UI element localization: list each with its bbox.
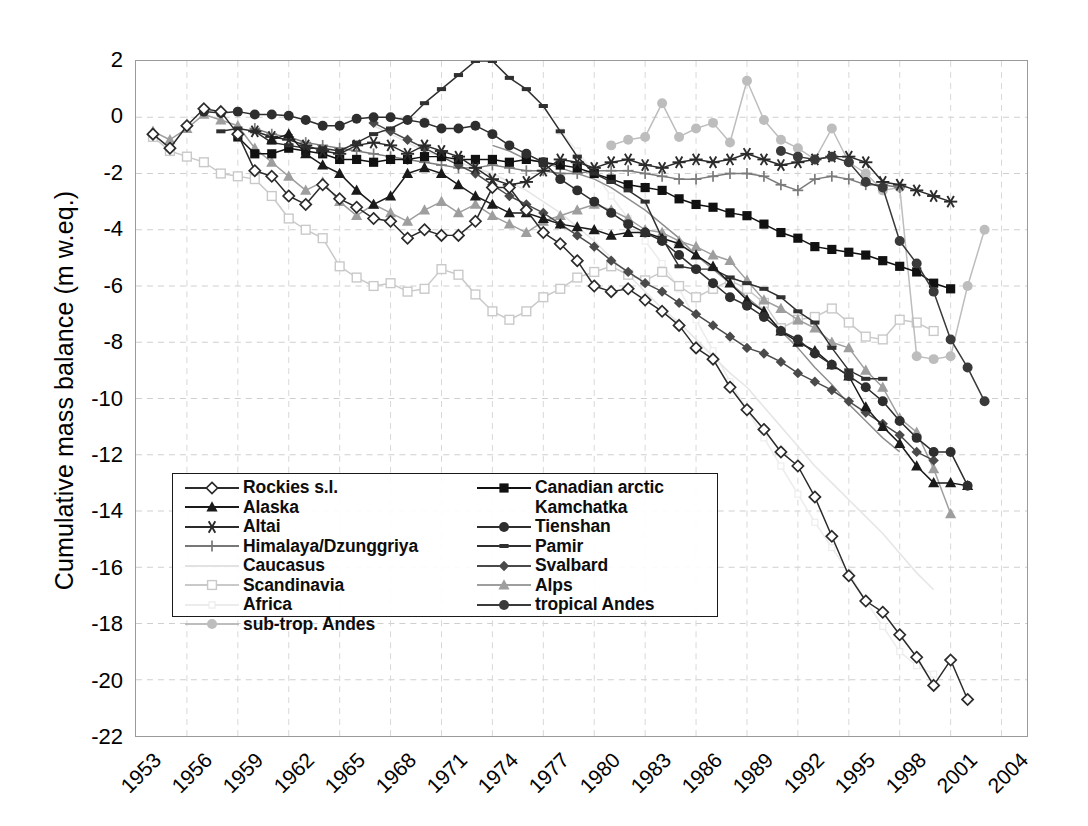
legend-label: Rockies s.l. — [243, 477, 338, 498]
series-svalbard — [368, 118, 938, 466]
legend-item-tropical-andes[interactable]: tropical Andes — [473, 595, 713, 615]
legend-label: Africa — [243, 594, 292, 615]
legend-item-africa[interactable]: Africa — [181, 595, 471, 615]
legend-item-canadian-arctic[interactable]: Canadian arctic — [473, 478, 713, 498]
legend-marker-icon — [473, 596, 535, 614]
legend-item-kamchatka[interactable]: Kamchatka — [473, 498, 713, 518]
legend-label: Altai — [243, 516, 280, 537]
legend-marker-icon — [181, 537, 243, 555]
legend-label: tropical Andes — [535, 594, 655, 615]
legend-item-sub-trop-andes[interactable]: sub-trop. Andes — [181, 615, 471, 635]
legend-marker-icon — [473, 518, 535, 536]
legend-column-right: Canadian arcticKamchatkaTienshanPamirSva… — [473, 478, 713, 615]
legend-label: Kamchatka — [535, 497, 627, 518]
legend-marker-icon — [473, 576, 535, 594]
legend-label: sub-trop. Andes — [243, 614, 375, 635]
legend-marker-icon — [181, 576, 243, 594]
chart-figure: Cumulative mass balance (m w.eq.) 20-2-4… — [0, 0, 1088, 826]
legend-item-himalaya-dzunggriya[interactable]: Himalaya/Dzunggriya — [181, 537, 471, 557]
series-tropical-andes — [776, 146, 990, 406]
legend-item-alps[interactable]: Alps — [473, 576, 713, 596]
legend-marker-icon — [181, 557, 243, 575]
legend-marker-icon — [473, 557, 535, 575]
legend-item-rockies-s-l[interactable]: Rockies s.l. — [181, 478, 471, 498]
legend-marker-icon — [181, 479, 243, 497]
legend-label: Himalaya/Dzunggriya — [243, 536, 418, 557]
legend-column-left: Rockies s.l.AlaskaAltaiHimalaya/Dzunggri… — [181, 478, 471, 634]
chart-legend: Rockies s.l.AlaskaAltaiHimalaya/Dzunggri… — [172, 473, 718, 617]
legend-label: Alaska — [243, 497, 299, 518]
legend-item-pamir[interactable]: Pamir — [473, 537, 713, 557]
legend-label: Canadian arctic — [535, 477, 664, 498]
data-series-layer — [136, 61, 1027, 736]
legend-item-tienshan[interactable]: Tienshan — [473, 517, 713, 537]
legend-marker-icon — [181, 596, 243, 614]
legend-marker-icon — [473, 537, 535, 555]
plot-area — [135, 60, 1028, 737]
legend-marker-icon — [181, 615, 243, 633]
legend-label: Svalbard — [535, 555, 608, 576]
legend-marker-icon — [181, 518, 243, 536]
legend-label: Tienshan — [535, 516, 611, 537]
legend-item-scandinavia[interactable]: Scandinavia — [181, 576, 471, 596]
legend-label: Pamir — [535, 536, 583, 557]
legend-label: Caucasus — [243, 555, 325, 576]
legend-marker-icon — [181, 498, 243, 516]
legend-item-alaska[interactable]: Alaska — [181, 498, 471, 518]
legend-label: Alps — [535, 575, 573, 596]
legend-item-svalbard[interactable]: Svalbard — [473, 556, 713, 576]
legend-marker-icon — [473, 479, 535, 497]
legend-item-caucasus[interactable]: Caucasus — [181, 556, 471, 576]
legend-label: Scandinavia — [243, 575, 344, 596]
legend-item-altai[interactable]: Altai — [181, 517, 471, 537]
